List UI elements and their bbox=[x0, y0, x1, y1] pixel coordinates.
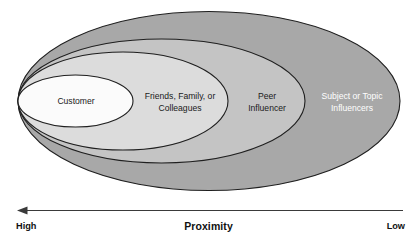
ring-label-peer-influencer-line1: Peer bbox=[258, 91, 276, 101]
ring-label-customer: Customer bbox=[57, 96, 94, 106]
axis-label-low: Low bbox=[387, 221, 405, 231]
ring-label-subject-or-topic-influencers-line2: Influencers bbox=[331, 103, 373, 113]
ring-label-friends-family-colleagues-line1: Friends, Family, or bbox=[145, 91, 216, 101]
ring-label-friends-family-colleagues-line2: Colleagues bbox=[159, 103, 202, 113]
ring-label-subject-or-topic-influencers-line1: Subject or Topic bbox=[322, 91, 384, 101]
nested-ellipse-diagram: Customer Friends, Family, or Colleagues … bbox=[0, 0, 417, 248]
axis-arrowhead-left-icon bbox=[17, 207, 28, 215]
proximity-axis bbox=[17, 207, 403, 215]
ring-label-peer-influencer-line2: Influencer bbox=[248, 103, 286, 113]
axis-title: Proximity bbox=[0, 220, 417, 232]
diagram-canvas: Customer Friends, Family, or Colleagues … bbox=[0, 0, 417, 248]
